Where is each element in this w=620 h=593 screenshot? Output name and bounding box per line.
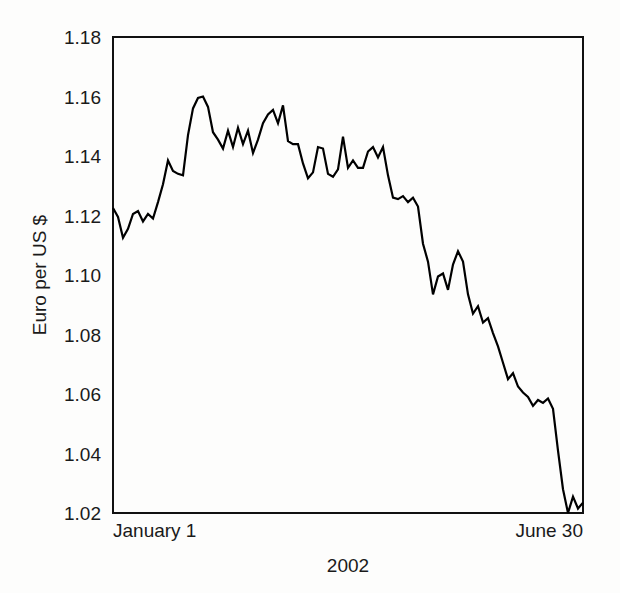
series-line-euro-per-usd	[113, 97, 583, 514]
y-tick-label: 1.06	[64, 384, 101, 405]
chart-page: 1.021.041.061.081.101.121.141.161.18 Eur…	[0, 0, 620, 593]
y-tick-label: 1.10	[64, 265, 101, 286]
y-tick-label: 1.12	[64, 206, 101, 227]
x-axis-start-label: January 1	[113, 520, 196, 541]
y-axis-tick-labels: 1.021.041.061.081.101.121.141.161.18	[64, 27, 101, 524]
y-tick-label: 1.04	[64, 444, 101, 465]
y-tick-label: 1.08	[64, 325, 101, 346]
x-axis-end-label: June 30	[515, 520, 583, 541]
y-tick-label: 1.14	[64, 146, 101, 167]
y-tick-label: 1.02	[64, 503, 101, 524]
x-axis-title: 2002	[327, 555, 369, 576]
line-chart: 1.021.041.061.081.101.121.141.161.18 Eur…	[0, 0, 620, 593]
y-tick-label: 1.18	[64, 27, 101, 48]
plot-frame	[113, 37, 583, 513]
y-axis-title: Euro per US $	[29, 214, 50, 335]
y-tick-label: 1.16	[64, 87, 101, 108]
